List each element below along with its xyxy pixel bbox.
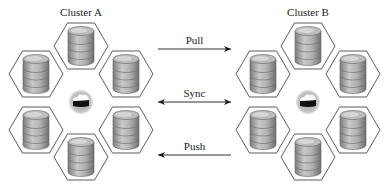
- cluster-a-title: Cluster A: [60, 6, 102, 18]
- node-lower-left: [9, 107, 63, 153]
- database-icon: [23, 55, 49, 94]
- node-bottom: [281, 134, 335, 180]
- database-icon: [68, 27, 94, 66]
- pull-arrow: [158, 46, 231, 52]
- node-top: [54, 23, 108, 69]
- cloud-icon: [69, 90, 93, 114]
- database-icon: [250, 111, 276, 150]
- node-bottom: [54, 134, 108, 180]
- pull-label: Pull: [186, 34, 204, 46]
- node-lower-left: [236, 107, 290, 153]
- node-upper-left: [236, 51, 290, 97]
- cloud-icon: [296, 90, 320, 114]
- cluster-b-title: Cluster B: [287, 6, 329, 18]
- node-upper-right: [99, 51, 153, 97]
- database-icon: [68, 138, 94, 177]
- node-upper-left: [9, 51, 63, 97]
- node-top: [281, 23, 335, 69]
- replication-diagram: Cluster A Cluster B Pull Sync Push: [0, 0, 389, 190]
- push-label: Push: [184, 140, 205, 152]
- cluster-b: [236, 23, 380, 180]
- database-icon: [113, 55, 139, 94]
- database-icon: [295, 27, 321, 66]
- cluster-a: [9, 23, 153, 180]
- node-lower-right: [99, 107, 153, 153]
- sync-label: Sync: [184, 87, 206, 99]
- node-upper-right: [326, 51, 380, 97]
- database-icon: [340, 111, 366, 150]
- database-icon: [340, 55, 366, 94]
- database-icon: [250, 55, 276, 94]
- database-icon: [113, 111, 139, 150]
- sync-arrow: [158, 99, 231, 105]
- database-icon: [23, 111, 49, 150]
- push-arrow: [158, 152, 231, 158]
- node-lower-right: [326, 107, 380, 153]
- database-icon: [295, 138, 321, 177]
